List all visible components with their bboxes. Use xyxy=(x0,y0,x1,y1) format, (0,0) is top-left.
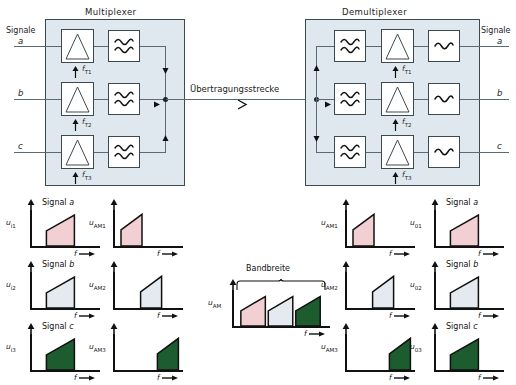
spectrum-bands xyxy=(114,272,184,308)
wire-mux-m1-f1 xyxy=(94,46,108,47)
spectrum-band xyxy=(389,338,410,370)
demux-mixer-1 xyxy=(381,29,414,63)
x-axis-label: f xyxy=(389,373,410,382)
x-axis xyxy=(30,370,100,372)
spectrum-plot-u_o3: u03f Signal c xyxy=(434,334,512,385)
spectrum-band xyxy=(450,277,478,308)
mux-bus-arrow-right xyxy=(151,94,161,113)
spectrum-bands xyxy=(114,334,184,370)
y-axis-label: uAM2 xyxy=(321,280,338,291)
wire-input-b xyxy=(14,99,61,100)
plot-title: Signal a xyxy=(42,198,74,207)
spectrum-plot-u_AM3: uAM3f xyxy=(113,334,191,385)
mux-mixer-2 xyxy=(61,82,94,116)
mux-carrier-arrow-2 xyxy=(71,116,80,135)
x-axis xyxy=(434,370,504,372)
spectrum-bands xyxy=(233,290,331,326)
y-axis-label: u02 xyxy=(410,280,422,291)
demux-bus-arrow-down-bottom xyxy=(312,128,321,147)
spectrum-bands xyxy=(114,210,184,246)
y-axis-label: uAM3 xyxy=(89,342,106,353)
multiplexer-input-group-label: Signale xyxy=(6,26,36,35)
mux-carrier-arrow-3 xyxy=(71,169,80,188)
y-axis-label: uAM xyxy=(208,298,221,309)
wire-input-a xyxy=(14,46,61,47)
input-label-c: c xyxy=(18,141,23,151)
demultiplexer-title: Demultiplexer xyxy=(342,7,407,17)
spectrum-band xyxy=(296,296,321,326)
y-axis-label: ui2 xyxy=(6,280,16,291)
y-axis-label: uAM1 xyxy=(321,218,338,229)
x-axis-label: f xyxy=(157,311,178,320)
y-axis-label: uAM1 xyxy=(89,218,106,229)
x-axis xyxy=(434,308,504,310)
mux-carrier-label-1: fT1 xyxy=(82,64,92,75)
x-axis xyxy=(113,246,183,248)
spectrum-bands xyxy=(346,272,416,308)
diagram-canvas: Multiplexer Signale a b c fT1 xyxy=(0,0,516,385)
spectrum-plot-u_AM_band: uAMf Bandbreite xyxy=(232,290,338,342)
demux-lowpass-filter-3 xyxy=(428,136,460,168)
spectrum-band xyxy=(121,214,142,246)
spectrum-bands xyxy=(435,272,505,308)
x-axis xyxy=(345,308,415,310)
wire-output-a xyxy=(460,46,509,47)
spectrum-band xyxy=(157,338,178,370)
x-axis xyxy=(30,308,100,310)
x-axis-label: f xyxy=(157,373,178,382)
y-axis-label: u01 xyxy=(410,218,422,229)
demux-carrier-label-2: fT2 xyxy=(402,117,412,128)
wire-mux-f3-bus xyxy=(140,152,166,153)
spectrum-band xyxy=(450,339,478,370)
wire-mux-m2-f2 xyxy=(94,99,108,100)
output-label-b: b xyxy=(497,88,502,98)
mux-mixer-1 xyxy=(61,29,94,63)
demux-node-arrow-right xyxy=(322,94,332,113)
mux-mixer-3 xyxy=(61,135,94,169)
spectrum-bands xyxy=(435,334,505,370)
transmission-path-label: Übertragungsstrecke xyxy=(190,84,279,94)
wire-demux-f3-m3 xyxy=(366,152,381,153)
spectrum-bands xyxy=(346,210,416,246)
wire-output-b xyxy=(460,99,509,100)
spectrum-bands xyxy=(346,334,416,370)
spectrum-plot-u_o1: u01f Signal a xyxy=(434,210,512,262)
wire-demux-bus-to-f1 xyxy=(316,46,334,47)
spectrum-band xyxy=(46,277,74,308)
demux-bandpass-filter-1 xyxy=(334,30,366,62)
transmission-arrow-right-icon xyxy=(235,95,249,114)
plot-title: Signal c xyxy=(446,322,478,331)
plot-title: Signal b xyxy=(446,260,478,269)
plot-title: Signal c xyxy=(42,322,74,331)
x-axis-label: f xyxy=(157,249,178,258)
mux-bus-arrow-down-top xyxy=(161,60,170,79)
x-axis xyxy=(113,308,183,310)
demux-carrier-label-1: fT1 xyxy=(402,64,412,75)
mux-carrier-label-2: fT2 xyxy=(82,117,92,128)
y-axis-label: ui1 xyxy=(6,218,16,229)
x-axis-label: f xyxy=(389,249,410,258)
y-axis-label: uAM3 xyxy=(321,342,338,353)
x-axis-label: f xyxy=(74,311,95,320)
mux-bandpass-filter-1 xyxy=(108,30,140,62)
x-axis xyxy=(345,246,415,248)
y-axis-label: ui3 xyxy=(6,342,16,353)
mux-bandpass-filter-3 xyxy=(108,136,140,168)
spectrum-band xyxy=(373,276,394,308)
spectrum-band xyxy=(46,339,74,370)
wire-demux-f1-m1 xyxy=(366,46,381,47)
wire-demux-bus-to-f3 xyxy=(316,152,334,153)
plot-title: Signal b xyxy=(42,260,74,269)
mux-carrier-label-3: fT3 xyxy=(82,170,92,181)
y-axis-label: uAM2 xyxy=(89,280,106,291)
spectrum-plot-u_AM2: uAM2f xyxy=(113,272,191,324)
demux-carrier-label-3: fT3 xyxy=(402,170,412,181)
demux-bandpass-filter-2 xyxy=(334,83,366,115)
wire-output-c xyxy=(460,152,509,153)
x-axis-label: f xyxy=(74,249,95,258)
x-axis-label: f xyxy=(478,311,499,320)
demux-bandpass-filter-3 xyxy=(334,136,366,168)
wire-demux-f2-m2 xyxy=(366,99,381,100)
mux-carrier-arrow-1 xyxy=(71,63,80,82)
mux-bus-arrow-up-bottom xyxy=(161,130,170,149)
